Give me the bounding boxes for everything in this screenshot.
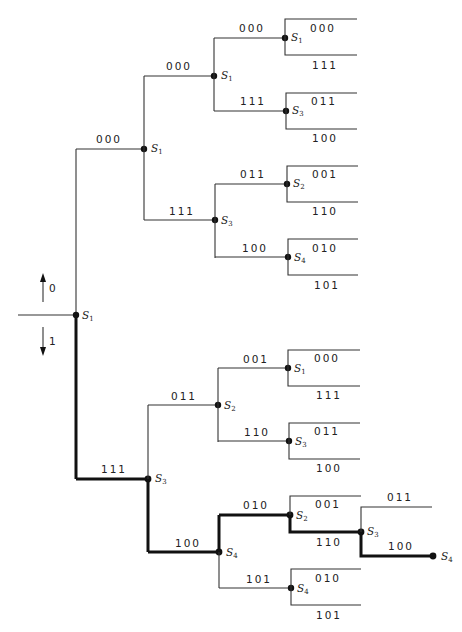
svg-text:010: 010 <box>315 572 341 584</box>
svg-text:S1: S1 <box>221 69 233 83</box>
svg-text:S1: S1 <box>151 142 163 156</box>
branch-uu: 000 S1 <box>144 38 233 111</box>
svg-text:111: 111 <box>316 389 342 401</box>
down-arrow-head-icon <box>40 347 46 356</box>
svg-text:001: 001 <box>312 168 338 180</box>
svg-text:S4: S4 <box>294 251 306 265</box>
svg-text:S2: S2 <box>296 509 308 523</box>
svg-text:S2: S2 <box>293 177 305 191</box>
svg-text:S3: S3 <box>155 472 167 486</box>
svg-text:001: 001 <box>243 353 269 365</box>
svg-text:111: 111 <box>240 95 266 107</box>
down-input-label: 1 <box>49 335 56 347</box>
svg-text:110: 110 <box>312 205 338 217</box>
svg-text:S3: S3 <box>295 435 307 449</box>
svg-text:111: 111 <box>169 205 195 217</box>
up-input-label: 0 <box>49 282 56 294</box>
svg-text:010: 010 <box>243 499 269 511</box>
svg-text:000: 000 <box>166 60 192 72</box>
svg-text:011: 011 <box>240 168 266 180</box>
branch-lu: 011 S2 <box>148 368 236 442</box>
svg-text:100: 100 <box>175 537 201 549</box>
svg-text:000: 000 <box>314 352 340 364</box>
branch-ulu: 011 S2 001 110 <box>215 166 358 217</box>
svg-text:011: 011 <box>171 390 197 402</box>
svg-text:100: 100 <box>312 132 338 144</box>
svg-text:101: 101 <box>316 609 342 621</box>
svg-text:S2: S2 <box>224 399 236 413</box>
svg-text:001: 001 <box>315 498 341 510</box>
svg-text:000: 000 <box>310 22 336 34</box>
branch-ll: 100 S4 <box>148 515 238 588</box>
svg-text:101: 101 <box>246 573 272 585</box>
svg-text:100: 100 <box>316 462 342 474</box>
svg-text:101: 101 <box>314 279 340 291</box>
svg-text:S3: S3 <box>367 525 379 539</box>
svg-text:111: 111 <box>312 59 338 71</box>
svg-text:000: 000 <box>239 22 265 34</box>
svg-text:S4: S4 <box>297 582 309 596</box>
svg-text:011: 011 <box>311 95 337 107</box>
up-arrow-head-icon <box>40 273 46 282</box>
svg-text:S3: S3 <box>292 104 304 118</box>
svg-text:111: 111 <box>101 463 127 475</box>
svg-text:S4: S4 <box>441 550 453 564</box>
svg-text:110: 110 <box>316 536 342 548</box>
branch-u: 000 S1 <box>76 76 163 220</box>
svg-text:S4: S4 <box>226 546 238 560</box>
branch-lul: 110 S3 011 100 <box>218 423 360 474</box>
branch-llu-next: S3 011 100 S4 <box>358 491 454 564</box>
branch-luu: 001 S1 000 111 <box>218 350 360 401</box>
branch-uul: 111 S3 011 100 <box>214 93 357 144</box>
svg-text:100: 100 <box>242 242 268 254</box>
svg-text:S1: S1 <box>294 362 306 376</box>
code-tree-diagram: 0 1 S1 000 S1 000 S1 000 S1 000 111 <box>0 0 462 632</box>
svg-text:100: 100 <box>388 540 414 552</box>
branch-uuu: 000 S1 000 111 <box>214 19 357 71</box>
branch-l: 111 S3 <box>76 405 167 552</box>
branch-llu: 010 S2 001 110 <box>219 496 361 548</box>
branch-ul: 111 S3 <box>144 184 233 258</box>
svg-text:110: 110 <box>244 426 270 438</box>
svg-text:010: 010 <box>312 242 338 254</box>
svg-text:000: 000 <box>96 133 122 145</box>
svg-text:S1: S1 <box>82 309 94 323</box>
svg-text:S1: S1 <box>291 31 303 45</box>
svg-text:011: 011 <box>314 425 340 437</box>
svg-text:011: 011 <box>387 491 413 503</box>
svg-text:S3: S3 <box>221 214 233 228</box>
root-node: S1 <box>18 149 94 479</box>
branch-lll: 101 S4 010 101 <box>219 569 361 621</box>
branch-ull: 100 S4 010 101 <box>215 239 358 291</box>
